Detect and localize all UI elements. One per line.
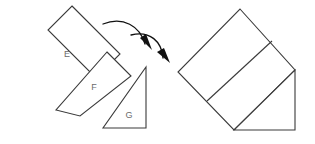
exploded-pieces-group: E F G [48,6,170,128]
assembled-figure-group [178,9,295,130]
geometry-diagram: E F G [0,0,315,144]
piece-g-label: G [125,110,132,120]
piece-e-label: E [64,49,70,59]
piece-f-label: F [91,82,97,92]
move-piece-g-arrowhead-icon [157,48,170,63]
move-piece-f-arrow [103,21,145,44]
figure-canvas: E F G [0,0,315,144]
